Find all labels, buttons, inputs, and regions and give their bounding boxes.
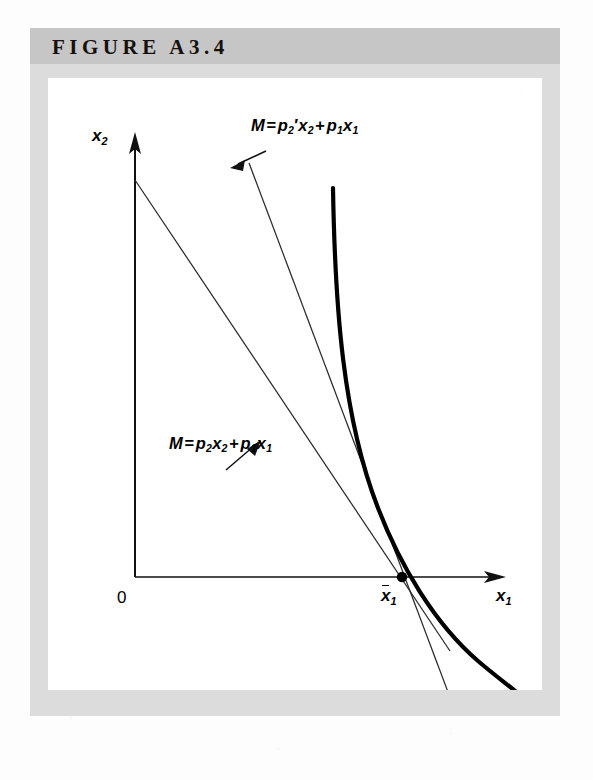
figure-title: FIGURE A3.4 [52,35,229,60]
x-axis-label: x1 [496,586,512,606]
equation-original-budget-line: M=p2x2+p1x1 [169,434,272,453]
annotation-arrow-top [230,151,266,171]
equation-new-budget-line: M=p2′x2+p1x1 [251,116,358,135]
x-axis [135,571,506,583]
origin-label: 0 [117,588,126,608]
plot-card: x2 x1 0 x1 M=p2′x2+p1x1 M=p2x2+p1x1 [48,78,542,690]
indifference-curve [333,188,520,690]
budget-line-new [249,163,451,690]
tangency-point-label: x1 [381,586,397,606]
figure-page: FIGURE A3.4 [0,0,593,780]
y-axis [129,132,141,577]
y-axis-label: x2 [92,126,108,146]
tangency-point [397,572,407,582]
figure-panel: FIGURE A3.4 [30,28,560,716]
figure-header-band: FIGURE A3.4 [30,28,560,64]
